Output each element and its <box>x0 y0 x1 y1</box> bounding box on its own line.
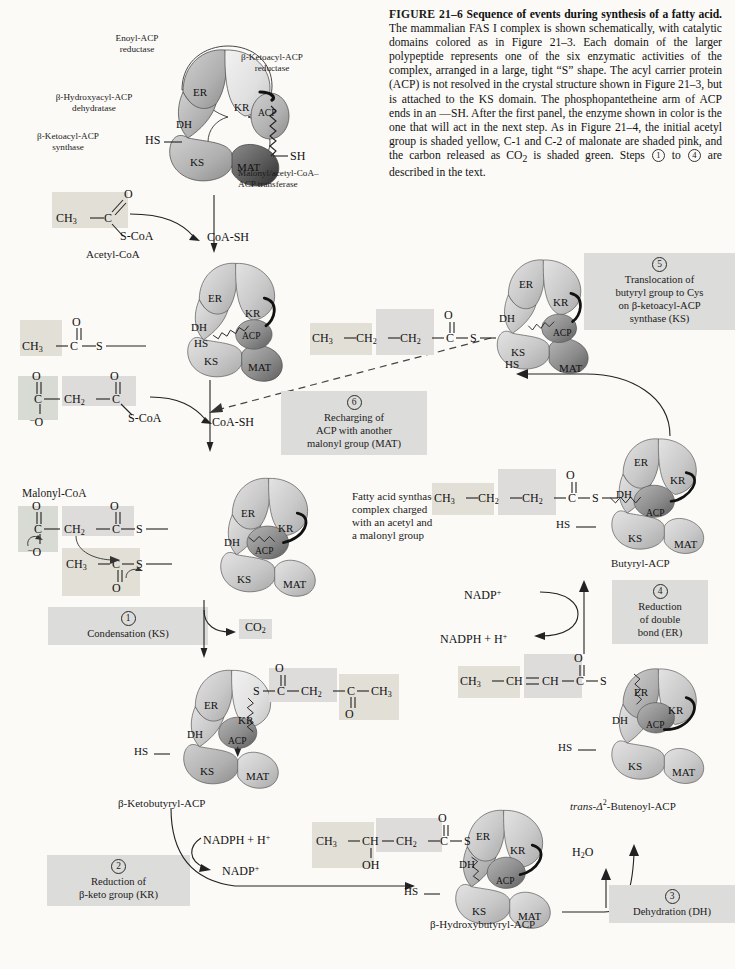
step-1-number: 1 <box>121 611 136 626</box>
panel-label-butyryl: Butyryl-ACP <box>611 557 670 569</box>
figure-caption-body-3: to <box>666 149 687 162</box>
panel-label-butenoyl: trans-Δ2-Butenoyl-ACP <box>570 797 676 812</box>
caption-step-4: 4 <box>688 149 701 162</box>
malonyl-thioester-s: S <box>136 523 143 536</box>
t-butyryl-ch2-b: CH2 <box>400 332 421 348</box>
butyryl-c1-oxygen: O <box>566 469 575 482</box>
ketobutyryl-ch2: CH2 <box>301 685 322 701</box>
butyryl-thioester-s: S <box>592 492 599 505</box>
label-enoyl-acp-reductase: Enoyl-ACP reductase <box>97 33 177 55</box>
figure-number: FIGURE 21–6 <box>389 8 463 21</box>
nadph-label-4: NADPH + H+ <box>440 630 507 646</box>
t-butyryl-ch2-a: CH2 <box>356 332 377 348</box>
nadph-label-2: NADPH + H+ <box>203 831 270 847</box>
co2-product: CO2 <box>239 619 272 639</box>
acetyl-carbonyl-c: C <box>104 212 112 225</box>
butenoyl-thioester-s: S <box>600 675 607 688</box>
acetyl-oxygen: O <box>72 316 81 329</box>
acetyl-oxygen: O <box>112 582 121 595</box>
acetyl-thioester-s: S <box>96 340 103 353</box>
label-ketoacyl-acp-reductase: β-Ketoacyl-ACP reductase <box>222 52 322 74</box>
step-6-line-2: ACP with another <box>290 424 418 437</box>
step-6-line-1: Recharging of <box>290 411 418 424</box>
hydroxy-thioester-s: S <box>464 835 471 848</box>
label-ketoacyl-acp-synthase: β-Ketoacyl-ACP synthase <box>22 131 114 153</box>
butenoyl-ch3: CH3 <box>460 675 481 691</box>
label-malonyl-acetyl-transferase: Malonyl/acetyl-CoA– ACP transferase <box>238 168 358 189</box>
hydroxy-ch: CH <box>362 835 379 848</box>
figure-title: Sequence of events during synthesis of a… <box>467 8 722 21</box>
step-6-number: 6 <box>347 395 362 410</box>
fas-complex-panel-charged: ER KR DH KS MAT ACP <box>175 468 345 598</box>
step-1-box: 1 Condensation (KS) <box>48 607 208 645</box>
butyryl-ch2-b: CH2 <box>522 492 543 508</box>
step-6-box: 6 Recharging of ACP with another malonyl… <box>281 391 427 455</box>
step-3-box: 3 Dehydration (DH) <box>609 885 735 923</box>
step-4-box: 4 Reduction of double bond (ER) <box>612 580 708 644</box>
h2o-label: H2O <box>572 846 593 862</box>
caption-step-1: 1 <box>652 149 665 162</box>
t-butyryl-c1-oxygen: O <box>444 309 453 322</box>
ketobutyryl-s: S <box>253 685 260 698</box>
malonyl-coa-name: Malonyl-CoA <box>22 487 87 499</box>
step-4-line-1: Reduction <box>621 600 699 613</box>
malonyl-ch2: CH2 <box>64 393 85 409</box>
step-4-line-2: of double <box>621 613 699 626</box>
figure-caption-body-1: The mammalian FAS I complex is shown sch… <box>389 22 722 162</box>
ketobutyryl-ch3: CH3 <box>371 685 392 701</box>
acetyl-reaction-arrows <box>130 195 250 261</box>
hydroxy-oh: OH <box>362 859 379 872</box>
acetyl-ch3: CH3 <box>56 212 77 228</box>
ketobutyryl-c3-oxygen: O <box>345 708 354 721</box>
step-4-arrows <box>538 578 608 656</box>
step-2-line-2: β-keto group (KR) <box>56 888 181 901</box>
nadp-label-4: NADP+ <box>464 586 501 602</box>
step-6-line-3: malonyl group (MAT) <box>290 437 418 450</box>
step-3-text: Dehydration (DH) <box>618 905 726 918</box>
butenoyl-ch-b: CH <box>542 675 559 688</box>
fas-complex-panel-translocated: ER KR DH KS MAT ACP HS <box>455 250 615 375</box>
hydroxy-ch2: CH2 <box>396 835 417 851</box>
butyryl-ch3: CH3 <box>434 492 455 508</box>
t-butyryl-thioester-s: S <box>470 332 477 345</box>
butenoyl-ch-a: CH <box>506 675 523 688</box>
hydroxy-ch3: CH3 <box>316 835 337 851</box>
coash-release-1: CoA-SH <box>207 231 249 244</box>
ks-hs-label: HS <box>556 518 570 530</box>
step-5-number: 5 <box>652 257 667 272</box>
step-3-number: 3 <box>665 889 680 904</box>
step-2-number: 2 <box>111 859 126 874</box>
t-butyryl-ch3: CH3 <box>312 332 333 348</box>
ketobutyryl-c1-oxygen: O <box>275 662 284 675</box>
figure-caption: FIGURE 21–6 Sequence of events during sy… <box>389 8 722 180</box>
label-hydroxyacyl-acp-dehydratase: β-Hydroxyacyl-ACP dehydratase <box>40 92 148 114</box>
step-2-line-1: Reduction of <box>56 875 181 888</box>
step-4-number: 4 <box>653 584 668 599</box>
nadp-label-2: NADP+ <box>222 862 259 878</box>
panel-label-hydroxybutyryl: β-Hydroxybutyryl-ACP <box>430 918 535 930</box>
butyryl-ch2-a: CH2 <box>478 492 499 508</box>
step-4-line-3: bond (ER) <box>621 626 699 639</box>
acetyl-ch3: CH3 <box>22 340 43 356</box>
step-1-text: Condensation (KS) <box>57 627 199 640</box>
figure-caption-body-2: is shaded green. Steps <box>527 149 651 162</box>
hydroxy-c1-oxygen: O <box>438 812 447 825</box>
